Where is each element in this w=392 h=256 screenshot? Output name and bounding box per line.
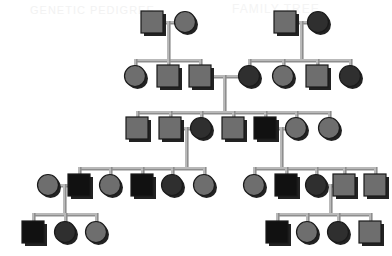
pedigree-symbol-circle-unaffected: II-1 xyxy=(125,66,149,90)
pedigree-symbol-circle-carrier: I-4 xyxy=(308,12,332,36)
pedigree-symbol-square-unaffected: I-1 xyxy=(141,11,166,36)
pedigree-symbol-square-unaffected: II-6 xyxy=(306,65,331,90)
pedigree-symbol-circle-unaffected: III-6 xyxy=(286,118,310,142)
pedigree-symbol-square-affected: V-4 xyxy=(266,221,291,246)
pedigree-symbol-circle-unaffected: V-3 xyxy=(86,222,110,246)
pedigree-symbol-circle-unaffected: IV-3 xyxy=(100,175,124,199)
pedigree-symbol-square-affected: IV-8 xyxy=(275,174,300,199)
pedigree-symbol-square-unaffected: III-4 xyxy=(222,117,247,142)
pedigree-chart: GENETIC PEDIGREE FAMILY TREE I-1I-2I-3I-… xyxy=(0,0,392,256)
pedigree-symbol-square-unaffected: V-7 xyxy=(359,221,384,246)
pedigree-symbol-circle-carrier: V-2 xyxy=(55,222,79,246)
pedigree-symbol-square-affected: IV-2 xyxy=(68,174,93,199)
pedigree-symbol-circle-unaffected: IV-7 xyxy=(244,175,268,199)
pedigree-symbol-square-affected: IV-4 xyxy=(131,174,156,199)
pedigree-symbol-circle-unaffected: V-5 xyxy=(297,222,321,246)
pedigree-symbol-square-affected: III-5 xyxy=(254,117,279,142)
pedigree-symbol-circle-carrier: V-6 xyxy=(328,222,352,246)
pedigree-symbol-circle-carrier: IV-5 xyxy=(162,175,186,199)
pedigree-symbol-square-unaffected: III-2 xyxy=(159,117,184,142)
pedigree-symbol-square-unaffected: I-3 xyxy=(274,11,299,36)
pedigree-symbol-square-unaffected: IV-10 xyxy=(333,174,358,199)
pedigree-symbol-circle-carrier: IV-9 xyxy=(306,175,330,199)
pedigree-symbol-circle-carrier: II-4 xyxy=(239,66,263,90)
pedigree-symbol-circle-unaffected: III-7 xyxy=(319,118,343,142)
pedigree-symbol-square-unaffected: II-3 xyxy=(189,65,214,90)
pedigree-symbols: I-1I-2I-3I-4II-1II-2II-3II-4II-5II-6II-7… xyxy=(22,11,389,246)
pedigree-symbol-circle-carrier: III-3 xyxy=(191,118,215,142)
pedigree-symbol-circle-unaffected: I-2 xyxy=(175,12,199,36)
pedigree-symbol-square-unaffected: II-2 xyxy=(157,65,182,90)
pedigree-symbol-circle-unaffected: IV-6 xyxy=(194,175,218,199)
pedigree-symbol-square-affected: V-1 xyxy=(22,221,47,246)
pedigree-symbol-circle-carrier: II-7 xyxy=(340,66,364,90)
pedigree-symbol-square-unaffected: III-1 xyxy=(126,117,151,142)
pedigree-symbol-square-unaffected: IV-11 xyxy=(364,174,389,199)
pedigree-symbol-circle-unaffected: II-5 xyxy=(273,66,297,90)
pedigree-symbol-circle-unaffected: IV-1 xyxy=(38,175,62,199)
pedigree-graph: I-1I-2I-3I-4II-1II-2II-3II-4II-5II-6II-7… xyxy=(0,0,392,256)
